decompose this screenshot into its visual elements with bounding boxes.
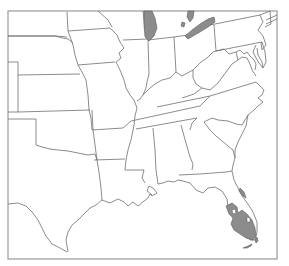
lake-huron-shade: [187, 11, 194, 22]
florida-keys-shade: [243, 244, 252, 248]
shaded-regions: [144, 11, 258, 248]
range-map: [0, 0, 289, 266]
lake-stclair-shade: [181, 22, 185, 27]
south-florida-shade: [226, 203, 256, 240]
lake-michigan-shade: [144, 11, 157, 41]
